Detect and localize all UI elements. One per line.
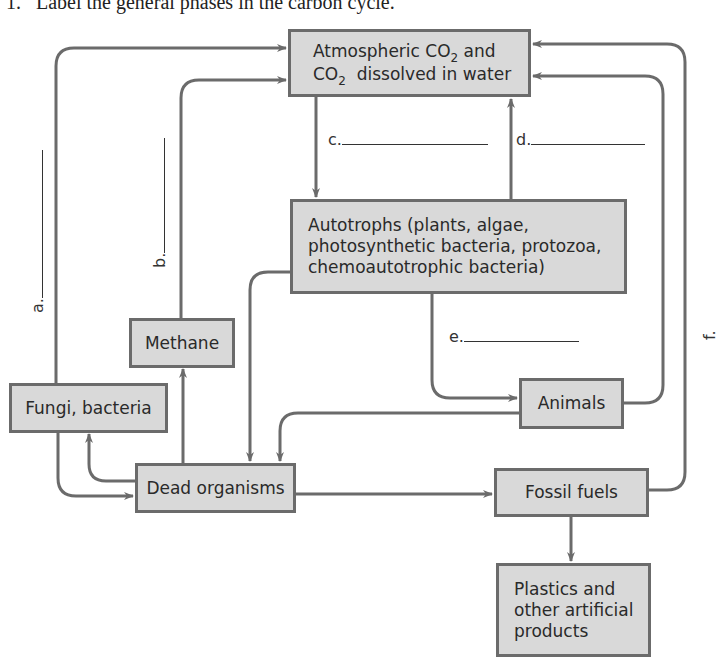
- blank-b-line[interactable]: [150, 138, 165, 253]
- blank-c-line[interactable]: [342, 130, 488, 145]
- blank-c[interactable]: c.: [328, 130, 488, 149]
- node-fungi-bacteria: Fungi, bacteria: [9, 383, 168, 433]
- blank-a-line[interactable]: [28, 150, 43, 298]
- blank-a[interactable]: a.: [28, 150, 47, 313]
- arrow-autotrophs-to-dead: [250, 272, 290, 461]
- node-animals: Animals: [519, 378, 624, 429]
- node-fossil-fuels: Fossil fuels: [494, 468, 649, 517]
- node-atmospheric-co2: Atmospheric CO2 and CO2 dissolved in wat…: [288, 29, 531, 97]
- arrow-b-methane-to-atmosphere: [181, 80, 286, 318]
- blank-e-line[interactable]: [464, 327, 579, 342]
- blank-e[interactable]: e.: [449, 327, 579, 346]
- node-autotrophs: Autotrophs (plants, algae, photosyntheti…: [290, 199, 627, 294]
- node-dead-organisms: Dead organisms: [135, 463, 296, 513]
- blank-d-line[interactable]: [531, 130, 645, 145]
- blank-f[interactable]: f.: [700, 330, 719, 340]
- arrow-animals-to-dead: [280, 413, 519, 461]
- node-methane: Methane: [129, 318, 235, 368]
- arrow-dead-to-fungi: [89, 434, 135, 481]
- node-plastics: Plastics and other artificial products: [496, 563, 651, 657]
- arrow-fungi-to-dead: [58, 432, 133, 496]
- blank-d[interactable]: d.: [516, 130, 645, 149]
- blank-b[interactable]: b.: [150, 138, 169, 268]
